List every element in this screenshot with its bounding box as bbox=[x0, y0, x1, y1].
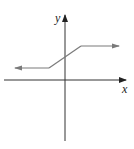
y-axis-label: y bbox=[54, 11, 61, 25]
graph-canvas: y x bbox=[0, 0, 134, 149]
x-axis-label: x bbox=[121, 82, 128, 96]
